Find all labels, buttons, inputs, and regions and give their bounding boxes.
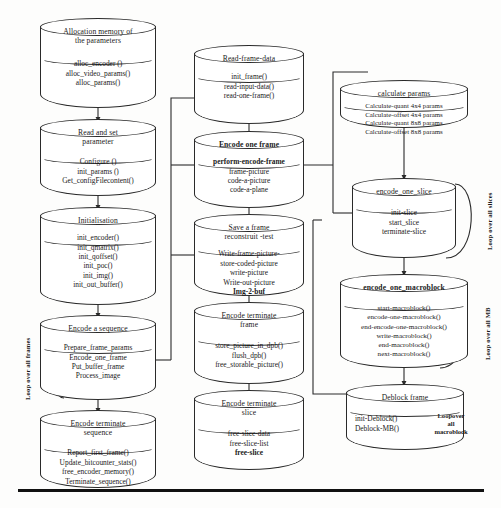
node-body: init-Deblock() Deblock-MB() <box>347 412 463 433</box>
node-title: Encode terminateframe <box>195 310 303 329</box>
node-title: Encode a sequence <box>41 323 155 333</box>
node-body: Report_first_frame() Update_bitcounter_s… <box>41 446 155 486</box>
node-line: init-slice <box>355 208 453 217</box>
node-encode-terminate-frame[interactable]: Encode terminateframe store_picture_in_d… <box>194 310 304 384</box>
node-line: init_encoder() <box>43 233 153 242</box>
node-title: Read and setparameter <box>41 127 155 146</box>
node-line: alloc_video_params() <box>43 69 153 78</box>
node-encode-terminate-sequence[interactable]: Encode terminatesequence Report_first_fr… <box>40 418 156 488</box>
node-line: Calculate-offset 8x8 params <box>343 128 465 137</box>
node-body: Prepare_frame_params Encode_one_frame Pu… <box>41 341 155 381</box>
node-calculate-params[interactable]: calculate params Calculate-quant 4x4 par… <box>340 88 468 128</box>
node-title: Encode terminatesequence <box>41 418 155 437</box>
node-initialisation[interactable]: Initialisation init_encoder() init_qmatr… <box>40 215 156 305</box>
node-line: init_frame() <box>197 72 301 81</box>
node-title: Read-frame-data <box>195 53 303 63</box>
node-title: Encode one frame <box>195 139 303 149</box>
node-line: start-macroblock() <box>343 304 465 313</box>
node-title: Allocation memory ofthe parameters <box>41 26 155 45</box>
loop-label-frames: Loop over all frames <box>24 338 31 400</box>
node-line: Report_first_frame() <box>43 448 153 457</box>
node-line: free_encoder_memory() <box>43 467 153 476</box>
node-line: init-Deblock() <box>355 414 461 423</box>
node-body: store_picture_in_dpb() flush_dpb() free_… <box>195 339 303 369</box>
node-line: init_out_buffer() <box>43 280 153 289</box>
node-encode-terminate-slice[interactable]: Encode terminateslice free-slice-data fr… <box>194 398 304 470</box>
node-encode-one-frame[interactable]: Encode one frame perform-encode-frame fr… <box>194 139 304 208</box>
node-line: init_params () <box>43 167 153 176</box>
node-line: terminate-slice <box>355 227 453 236</box>
node-title: Save a framereconstruit -test <box>195 222 303 241</box>
node-line: alloc_encoder () <box>43 59 153 68</box>
node-line: init_qoffset() <box>43 252 153 261</box>
node-read-and-set-parameter[interactable]: Read and setparameter Configure () init_… <box>40 127 156 196</box>
node-line: Configure () <box>43 157 153 166</box>
node-line: frame-picture <box>197 167 301 176</box>
node-line: Process_image <box>43 371 153 380</box>
node-line: read-one-frame() <box>197 91 301 100</box>
node-line: Calculate-quant 4x4 params <box>343 102 465 111</box>
node-line: encode-one-macroblock() <box>343 313 465 322</box>
node-line: Update_bitcounter_stats() <box>43 458 153 467</box>
node-line: free-slice-data <box>197 429 301 438</box>
node-title: calculate params <box>341 88 467 98</box>
node-line: next-macroblock() <box>343 350 465 359</box>
node-line: code-a-picture <box>197 176 301 185</box>
node-allocation-memory[interactable]: Allocation memory ofthe parameters alloc… <box>40 26 156 108</box>
node-line: init_qmatrix() <box>43 243 153 252</box>
node-encode-one-slice[interactable]: encode_one_slice init-slice start_slice … <box>352 186 456 258</box>
node-line: Calculate-offset 4x4 params <box>343 111 465 120</box>
node-line: free-slice-list <box>197 439 301 448</box>
node-body: init-slice start_slice terminate-slice <box>353 206 455 236</box>
node-line: store_picture_in_dpb() <box>197 341 301 350</box>
node-line: Get_configFilecontent() <box>43 176 153 185</box>
node-line: init_poc() <box>43 261 153 270</box>
node-line: end-macroblock() <box>343 341 465 350</box>
node-line: code-a-plane <box>197 185 301 194</box>
node-line: store-coded-picture <box>197 259 301 268</box>
node-line: Calculate-quant 8x8 params <box>343 119 465 128</box>
node-deblock-frame[interactable]: Deblock frame init-Deblock() Deblock-MB(… <box>346 392 464 450</box>
node-line: Write-out-picture <box>197 278 301 287</box>
node-line: Img-2-buf <box>197 287 301 296</box>
node-line: Encode_one_frame <box>43 353 153 362</box>
loop-label-mb: Loop over all MB <box>484 307 491 360</box>
node-body: Calculate-quant 4x4 params Calculate-off… <box>341 100 467 136</box>
node-body: Write-frame-picture- store-coded-picture… <box>195 247 303 296</box>
node-line: write-macroblock() <box>343 332 465 341</box>
node-body: perform-encode-frame frame-picture code-… <box>195 155 303 195</box>
node-read-frame-data[interactable]: Read-frame-data init_frame() read-input-… <box>194 53 304 124</box>
node-title: encode_one_slice <box>353 186 455 196</box>
node-line: free-slice <box>197 448 301 457</box>
node-body: Configure () init_params () Get_configFi… <box>41 155 155 185</box>
node-line: read-input-data() <box>197 82 301 91</box>
node-line: Terminate_sequence() <box>43 477 153 486</box>
node-encode-a-sequence[interactable]: Encode a sequence Prepare_frame_params E… <box>40 323 156 400</box>
node-body: free-slice-data free-slice-list free-sli… <box>195 427 303 457</box>
node-line: start_slice <box>355 218 453 227</box>
node-save-a-frame[interactable]: Save a framereconstruit -test Write-fram… <box>194 222 304 296</box>
node-line: flush_dpb() <box>197 351 301 360</box>
node-title: Deblock frame <box>347 392 463 402</box>
flowchart-canvas: Allocation memory ofthe parameters alloc… <box>0 0 501 508</box>
node-line: alloc_params() <box>43 78 153 87</box>
node-line: write-picture <box>197 268 301 277</box>
node-body: alloc_encoder () alloc_video_params() al… <box>41 57 155 87</box>
loop-label-slices: Loop over all slices <box>486 192 493 250</box>
node-title: Encode terminateslice <box>195 398 303 417</box>
node-line: free_storable_picture() <box>197 360 301 369</box>
node-line: Deblock-MB() <box>355 424 461 433</box>
node-title: Initialisation <box>41 215 155 225</box>
node-line: Write-frame-picture- <box>197 249 301 258</box>
node-line: init_img() <box>43 271 153 280</box>
bottom-rule <box>18 489 484 492</box>
node-body: init_frame() read-input-data() read-one-… <box>195 70 303 100</box>
node-line: end-encode-one-macroblock() <box>343 323 465 332</box>
node-body: start-macroblock() encode-one-macroblock… <box>341 302 467 359</box>
node-encode-one-macroblock[interactable]: encode_one_macroblock start-macroblock()… <box>340 282 468 368</box>
node-line: perform-encode-frame <box>197 157 301 166</box>
node-line: Put_buffer_frame <box>43 362 153 371</box>
node-body: init_encoder() init_qmatrix() init_qoffs… <box>41 231 155 289</box>
node-title: encode_one_macroblock <box>341 282 467 292</box>
node-line: Prepare_frame_params <box>43 343 153 352</box>
